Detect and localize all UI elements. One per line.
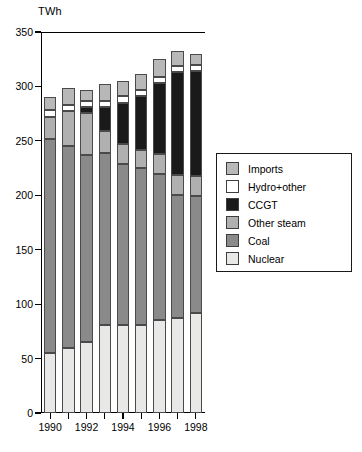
legend-item-nuclear[interactable]: Nuclear — [226, 250, 284, 267]
bar-segment-other-steam — [99, 131, 111, 153]
x-axis-tick — [159, 413, 160, 419]
bar-segment-nuclear — [135, 325, 147, 413]
bar-segment-nuclear — [62, 348, 74, 413]
bar-segment-hydro-other — [80, 101, 92, 108]
bar-segment-other-steam — [44, 117, 56, 139]
legend-swatch-icon — [226, 180, 239, 193]
bar-segment-other-steam — [62, 111, 74, 146]
x-axis-tick — [86, 413, 87, 419]
y-axis-tick-label: 100 — [0, 299, 33, 309]
bar-segment-ccgt — [80, 107, 92, 112]
x-axis-tick — [50, 413, 51, 419]
bar-segment-imports — [80, 90, 92, 101]
bar-segment-ccgt — [153, 83, 165, 154]
bar-segment-hydro-other — [117, 96, 129, 103]
bar-1993 — [99, 32, 111, 413]
bar-segment-imports — [62, 88, 74, 105]
y-axis-tick-label: 0 — [0, 408, 33, 418]
bar-segment-hydro-other — [44, 110, 56, 117]
bar-segment-coal — [99, 153, 111, 325]
bar-segment-imports — [99, 84, 111, 100]
bar-1992 — [80, 32, 92, 413]
legend-swatch-icon — [226, 252, 239, 265]
legend-item-imports[interactable]: Imports — [226, 160, 283, 177]
bars-layer — [41, 32, 205, 413]
bar-segment-imports — [44, 97, 56, 110]
bar-segment-nuclear — [153, 320, 165, 413]
bar-segment-imports — [153, 59, 165, 76]
y-axis-unit-label: TWh — [38, 5, 62, 17]
bar-segment-hydro-other — [171, 66, 183, 73]
bar-1998 — [190, 32, 202, 413]
bar-segment-ccgt — [171, 72, 183, 174]
bar-segment-nuclear — [190, 313, 202, 413]
bar-segment-imports — [190, 54, 202, 65]
bar-segment-nuclear — [171, 318, 183, 413]
bar-segment-nuclear — [99, 325, 111, 413]
bar-segment-ccgt — [99, 107, 111, 131]
bar-1997 — [171, 32, 183, 413]
x-axis-tick-label: 1998 — [176, 421, 216, 433]
bar-1990 — [44, 32, 56, 413]
legend-swatch-icon — [226, 234, 239, 247]
chart-legend: ImportsHydro+otherCCGTOther steamCoalNuc… — [216, 153, 352, 272]
legend-label: Nuclear — [248, 253, 284, 265]
legend-swatch-icon — [226, 216, 239, 229]
y-axis-tick-label: 150 — [0, 245, 33, 255]
bar-segment-ccgt — [117, 103, 129, 144]
bar-segment-other-steam — [135, 150, 147, 169]
bar-segment-other-steam — [117, 144, 129, 164]
bar-segment-ccgt — [135, 96, 147, 149]
y-axis-tick-label: 50 — [0, 354, 33, 364]
bar-segment-imports — [135, 74, 147, 89]
bar-segment-other-steam — [190, 176, 202, 197]
bar-segment-coal — [80, 155, 92, 342]
bar-1996 — [153, 32, 165, 413]
legend-item-ccgt[interactable]: CCGT — [226, 196, 278, 213]
bar-1994 — [117, 32, 129, 413]
bar-segment-coal — [44, 139, 56, 353]
legend-label: Hydro+other — [248, 181, 306, 193]
x-axis-tick-label: 1996 — [139, 421, 179, 433]
y-axis-tick-label: 200 — [0, 190, 33, 200]
bar-segment-other-steam — [80, 113, 92, 155]
bar-segment-coal — [190, 196, 202, 312]
bar-segment-nuclear — [80, 342, 92, 413]
legend-swatch-icon — [226, 198, 239, 211]
bar-segment-nuclear — [117, 325, 129, 413]
legend-item-coal[interactable]: Coal — [226, 232, 270, 249]
x-axis-tick — [122, 413, 123, 419]
y-axis-tick-label: 250 — [0, 136, 33, 146]
legend-item-hydro-other[interactable]: Hydro+other — [226, 178, 306, 195]
bar-segment-coal — [62, 146, 74, 347]
legend-label: CCGT — [248, 199, 278, 211]
x-axis-tick — [68, 413, 69, 419]
bar-segment-coal — [171, 195, 183, 318]
bar-1991 — [62, 32, 74, 413]
y-axis-tick-label: 300 — [0, 81, 33, 91]
y-axis-tick-label: 350 — [0, 27, 33, 37]
bar-segment-hydro-other — [62, 105, 74, 112]
bar-segment-hydro-other — [135, 90, 147, 97]
stacked-bar-chart: TWh 050100150200250300350 19901992199419… — [0, 0, 362, 452]
legend-label: Imports — [248, 163, 283, 175]
legend-label: Other steam — [248, 217, 306, 229]
x-axis-tick-label: 1992 — [67, 421, 107, 433]
bar-segment-other-steam — [153, 154, 165, 174]
bar-segment-ccgt — [190, 71, 202, 176]
bar-segment-hydro-other — [153, 77, 165, 84]
x-axis-tick — [141, 413, 142, 419]
bar-segment-coal — [135, 168, 147, 325]
legend-item-other-steam[interactable]: Other steam — [226, 214, 306, 231]
bar-segment-coal — [153, 174, 165, 321]
bar-segment-other-steam — [171, 175, 183, 196]
x-axis-tick-label: 1994 — [103, 421, 143, 433]
bar-segment-imports — [171, 51, 183, 66]
bar-1995 — [135, 32, 147, 413]
bar-segment-nuclear — [44, 353, 56, 413]
bar-segment-imports — [117, 81, 129, 96]
x-axis-tick — [177, 413, 178, 419]
legend-swatch-icon — [226, 162, 239, 175]
x-axis-tick — [104, 413, 105, 419]
x-axis-tick — [195, 413, 196, 419]
